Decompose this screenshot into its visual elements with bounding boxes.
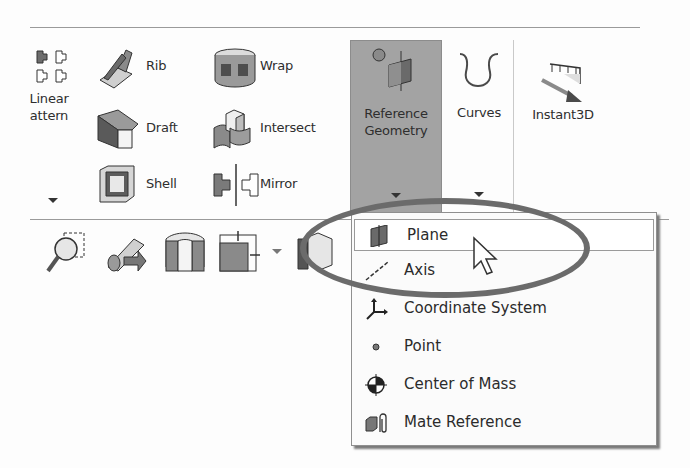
reference-geometry-menu: Plane Axis Coordinate System Point C [351, 212, 657, 446]
instant3d-label: Instant3D [518, 106, 608, 123]
shell-icon [96, 162, 140, 206]
ribbon-group-separator [513, 40, 514, 212]
ribbon-bottom-border-right [657, 219, 669, 220]
mouse-cursor-icon [472, 236, 500, 276]
mirror-icon [212, 164, 260, 206]
display-style-icon[interactable] [296, 231, 336, 271]
linear-pattern-dropdown-arrow[interactable] [48, 198, 58, 203]
previous-view-icon[interactable] [104, 231, 150, 275]
instant3d-button[interactable]: Instant3D [518, 40, 608, 130]
menu-item-plane[interactable]: Plane [354, 219, 654, 251]
menu-item-label: Mate Reference [404, 413, 522, 431]
plane-icon [367, 225, 393, 247]
menu-item-label: Center of Mass [404, 375, 516, 393]
point-icon [364, 336, 390, 358]
wrap-button[interactable]: Wrap [210, 44, 310, 92]
curves-icon [456, 50, 502, 90]
ribbon-top-border [30, 27, 640, 28]
curves-dropdown-arrow[interactable] [474, 192, 484, 197]
wrap-label: Wrap [260, 58, 293, 73]
coordinate-system-icon [364, 298, 390, 320]
mirror-button[interactable]: Mirror [210, 162, 320, 210]
menu-item-coordinate-system[interactable]: Coordinate System [352, 293, 652, 325]
menu-item-label: Coordinate System [404, 299, 547, 317]
menu-item-mate-reference[interactable]: Mate Reference [352, 407, 652, 439]
ribbon-bottom-border [30, 219, 352, 220]
mirror-label: Mirror [260, 176, 297, 191]
intersect-button[interactable]: Intersect [210, 104, 330, 152]
wrap-icon [212, 46, 258, 90]
reference-geometry-button[interactable]: Reference Geometry [350, 40, 442, 214]
shell-label: Shell [146, 176, 177, 191]
instant3d-icon [538, 60, 588, 106]
view-orientation-dropdown-arrow[interactable] [272, 249, 282, 254]
zoom-to-area-icon[interactable] [44, 231, 88, 275]
rib-label: Rib [146, 58, 166, 73]
menu-item-label: Point [404, 337, 441, 355]
mate-reference-icon [364, 412, 390, 434]
draft-button[interactable]: Draft [96, 104, 186, 152]
draft-icon [96, 106, 144, 150]
menu-item-label: Axis [404, 261, 435, 279]
center-of-mass-icon [364, 374, 390, 396]
curves-button[interactable]: Curves [448, 40, 510, 212]
axis-icon [364, 260, 390, 282]
menu-item-label: Plane [407, 226, 448, 244]
view-orientation-icon[interactable] [218, 229, 264, 275]
rib-button[interactable]: Rib [96, 44, 186, 92]
reference-geometry-icon [371, 47, 417, 93]
linear-pattern-icon [34, 48, 74, 86]
curves-label: Curves [448, 104, 510, 121]
view-toolbar [40, 225, 350, 275]
linear-pattern-label: Linear attern [26, 90, 72, 124]
intersect-icon [212, 106, 258, 152]
reference-geometry-label: Reference Geometry [351, 105, 441, 139]
shell-button[interactable]: Shell [96, 162, 186, 210]
intersect-label: Intersect [260, 120, 316, 135]
linear-pattern-button[interactable]: Linear attern [28, 40, 84, 215]
menu-item-axis[interactable]: Axis [352, 255, 652, 287]
reference-geometry-dropdown-arrow[interactable] [391, 193, 401, 198]
rib-icon [96, 46, 140, 90]
menu-item-center-of-mass[interactable]: Center of Mass [352, 369, 652, 401]
section-view-icon[interactable] [162, 229, 208, 275]
draft-label: Draft [146, 120, 178, 135]
menu-item-point[interactable]: Point [352, 331, 652, 363]
